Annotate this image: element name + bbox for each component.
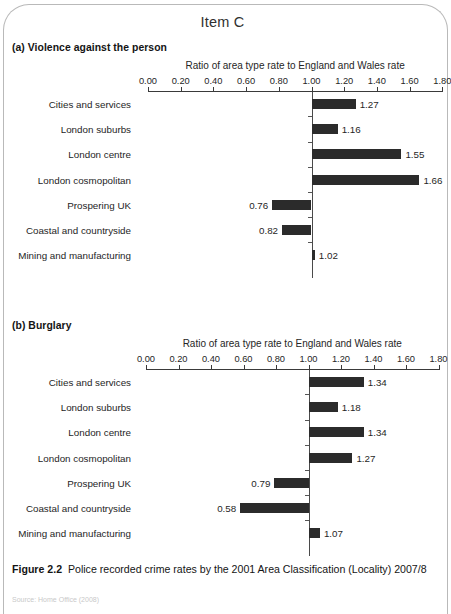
x-axis-tick xyxy=(309,365,310,369)
bar xyxy=(312,124,338,134)
bar-value-label: 1.27 xyxy=(360,98,379,109)
x-axis-tick-label: 0.60 xyxy=(237,76,255,86)
chart-row: London centre1.34 xyxy=(0,420,445,445)
category-label: Prospering UK xyxy=(0,199,131,210)
x-axis-tick xyxy=(279,87,280,91)
x-axis-tick-label: 1.00 xyxy=(299,354,317,364)
category-label: London centre xyxy=(0,427,131,438)
figure-caption: Figure 2.2 Police recorded crime rates b… xyxy=(12,562,432,577)
chart-row: Coastal and countryside0.58 xyxy=(0,495,445,520)
bar-value-label: 1.55 xyxy=(405,149,424,160)
x-axis-tick xyxy=(181,87,182,91)
x-axis-tick-label: 0.60 xyxy=(234,354,252,364)
x-axis-tick-label: 1.20 xyxy=(335,76,353,86)
x-axis-tick xyxy=(276,365,277,369)
category-label: Prospering UK xyxy=(0,477,131,488)
x-axis-tick-label: 1.20 xyxy=(332,354,350,364)
x-axis-tick-label: 0.00 xyxy=(137,354,155,364)
plot-area: Cities and services1.34London suburbs1.1… xyxy=(0,370,445,558)
x-axis-tick-label: 1.80 xyxy=(433,76,451,86)
category-label: Coastal and countryside xyxy=(0,224,131,235)
x-axis-tick-label: 1.40 xyxy=(364,354,382,364)
bar xyxy=(309,402,338,412)
x-axis-tick-label: 1.00 xyxy=(302,76,320,86)
chart-row: Cities and services1.27 xyxy=(0,91,445,116)
chart-row: London cosmopolitan1.66 xyxy=(0,167,445,192)
x-axis-tick xyxy=(344,87,345,91)
bar-value-label: 0.82 xyxy=(252,224,278,235)
category-label: Mining and manufacturing xyxy=(0,528,131,539)
chart-row: London cosmopolitan1.27 xyxy=(0,445,445,470)
x-axis-tick xyxy=(410,87,411,91)
category-label: Cities and services xyxy=(0,376,131,387)
bar xyxy=(312,99,356,109)
x-axis-tick-label: 0.80 xyxy=(270,76,288,86)
chart-row: London suburbs1.18 xyxy=(0,395,445,420)
category-label: London suburbs xyxy=(0,402,131,413)
x-axis-tick xyxy=(244,365,245,369)
figure-caption-text: Police recorded crime rates by the 2001 … xyxy=(68,563,427,575)
category-label: London cosmopolitan xyxy=(0,452,131,463)
bar xyxy=(312,250,315,260)
section-heading-b: (b) Burglary xyxy=(12,320,71,331)
x-axis-tick xyxy=(377,87,378,91)
x-axis-tick-label: 0.00 xyxy=(139,76,157,86)
x-axis-tick xyxy=(374,365,375,369)
x-axis-tick-label: 0.20 xyxy=(172,76,190,86)
page-title: Item C xyxy=(0,14,445,30)
category-label: London suburbs xyxy=(0,124,131,135)
x-axis-tick xyxy=(406,365,407,369)
bar xyxy=(309,427,364,437)
category-label: London cosmopolitan xyxy=(0,174,131,185)
category-label: Coastal and countryside xyxy=(0,502,131,513)
x-axis-title: Ratio of area type rate to England and W… xyxy=(148,60,442,71)
bar xyxy=(309,453,353,463)
chart-row: Prospering UK0.76 xyxy=(0,192,445,217)
section-heading-a: (a) Violence against the person xyxy=(12,42,167,53)
bar xyxy=(312,175,420,185)
bar xyxy=(282,225,311,235)
bar xyxy=(309,528,320,538)
bar-value-label: 0.76 xyxy=(242,199,268,210)
x-axis-tick-label: 0.20 xyxy=(169,354,187,364)
chart-row: Mining and manufacturing1.07 xyxy=(0,521,445,546)
plot-area: Cities and services1.27London suburbs1.1… xyxy=(0,92,445,280)
x-axis-tick-label: 1.40 xyxy=(368,76,386,86)
figure-caption-label: Figure 2.2 xyxy=(12,563,62,575)
x-axis-tick-label: 1.80 xyxy=(429,354,447,364)
source-note: Source: Home Office (2008) xyxy=(12,596,312,604)
x-axis-tick xyxy=(211,365,212,369)
x-axis-tick xyxy=(179,365,180,369)
chart-row: London centre1.55 xyxy=(0,142,445,167)
x-axis-tick xyxy=(213,87,214,91)
bar-value-label: 1.16 xyxy=(342,124,361,135)
category-label: Cities and services xyxy=(0,98,131,109)
bar xyxy=(309,377,364,387)
bar xyxy=(274,478,308,488)
bar-value-label: 0.58 xyxy=(210,502,236,513)
bar xyxy=(312,149,402,159)
bar-value-label: 1.07 xyxy=(324,528,343,539)
x-axis-tick xyxy=(246,87,247,91)
x-axis-tick xyxy=(312,87,313,91)
chart-row: Cities and services1.34 xyxy=(0,369,445,394)
x-axis-tick-label: 1.60 xyxy=(397,354,415,364)
x-axis-title: Ratio of area type rate to England and W… xyxy=(146,338,439,349)
category-label: Mining and manufacturing xyxy=(0,250,131,261)
bar-value-label: 1.18 xyxy=(342,402,361,413)
x-axis-tick-label: 0.40 xyxy=(202,354,220,364)
bar xyxy=(240,503,308,513)
chart-row: Mining and manufacturing1.02 xyxy=(0,243,445,268)
chart-row: Prospering UK0.79 xyxy=(0,470,445,495)
bar-value-label: 1.02 xyxy=(319,250,338,261)
category-label: London centre xyxy=(0,149,131,160)
bar-value-label: 0.79 xyxy=(244,477,270,488)
x-axis-tick-label: 0.40 xyxy=(204,76,222,86)
x-axis-tick xyxy=(341,365,342,369)
bar-value-label: 1.27 xyxy=(356,452,375,463)
chart-row: London suburbs1.16 xyxy=(0,117,445,142)
x-axis-tick-label: 1.60 xyxy=(401,76,419,86)
bar-value-label: 1.34 xyxy=(368,427,387,438)
bar-value-label: 1.34 xyxy=(368,376,387,387)
